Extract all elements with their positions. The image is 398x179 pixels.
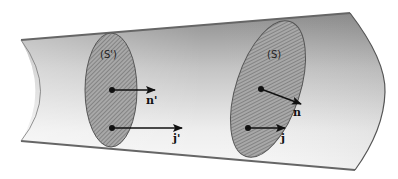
- normal-label-n: n: [293, 106, 301, 119]
- tube: [21, 13, 385, 170]
- current-label-j-prime: j': [172, 132, 180, 145]
- section-s-label: (S): [267, 49, 281, 60]
- current-label-j: j: [280, 132, 285, 145]
- section-s-prime-label: (S'): [100, 49, 117, 60]
- normal-label-n-prime: n': [146, 94, 157, 107]
- tube-flux-diagram: (S') n' j' (S) n j: [0, 0, 398, 179]
